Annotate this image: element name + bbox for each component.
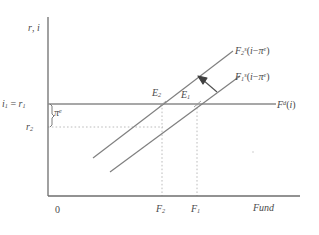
fund-supply-curve-1-label: F1s(i−πe)	[235, 72, 270, 83]
axes	[48, 17, 300, 196]
fund-demand-curve-label: Fd(i)	[277, 100, 296, 110]
loanable-funds-chart: r, i i1 = r1 r2 πe F2s(i−πe) F1s(i−πe) F…	[0, 0, 319, 235]
x-axis-label: Fund	[253, 203, 274, 213]
x-tick-label-F1: F1	[191, 204, 200, 215]
shift-arrow-icon	[198, 76, 217, 92]
y-tick-label-i1-r1: i1 = r1	[2, 99, 26, 110]
origin-label: 0	[55, 205, 60, 215]
fund-supply-curve-2-label: F2s(i−πe)	[235, 46, 270, 57]
y-tick-label-r2: r2	[26, 122, 33, 133]
scan-speck	[252, 151, 254, 153]
dotted-guides	[48, 104, 197, 196]
equilibrium-label-E2: E2	[152, 88, 161, 99]
equilibrium-label-E1: E1	[181, 90, 190, 101]
chart-canvas	[0, 0, 319, 235]
inflation-premium-label: πe	[54, 108, 62, 118]
y-axis-label: r, i	[28, 23, 40, 33]
x-tick-label-F2: F2	[156, 204, 165, 215]
fund-supply-curve-1	[110, 76, 240, 172]
